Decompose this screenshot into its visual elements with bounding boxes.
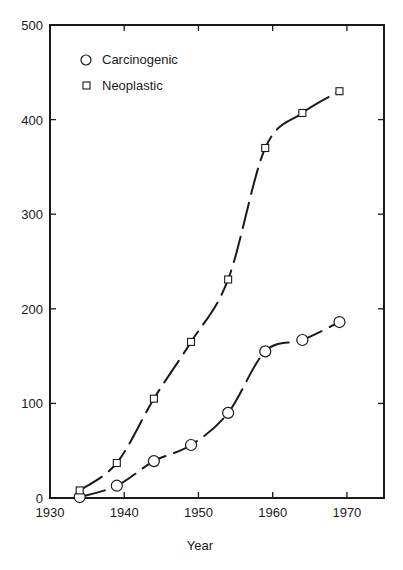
axis-ticks: 193019401950196019700100200300400500	[21, 18, 384, 520]
data-point-circle-icon	[223, 407, 234, 418]
y-tick-label: 500	[21, 18, 43, 33]
data-point-square-icon	[188, 338, 195, 345]
data-point-circle-icon	[148, 456, 159, 467]
x-tick-label: 1940	[110, 505, 139, 520]
data-point-square-icon	[262, 144, 269, 151]
legend: Carcinogenic Neoplastic	[81, 52, 178, 93]
x-tick-label: 1930	[36, 505, 65, 520]
legend-circle-marker-icon	[81, 55, 91, 65]
legend-square-marker-icon	[83, 82, 90, 89]
x-tick-label: 1950	[184, 505, 213, 520]
plot-frame	[50, 25, 384, 498]
data-point-square-icon	[299, 109, 306, 116]
data-point-square-icon	[113, 459, 120, 466]
legend-label-carcinogenic: Carcinogenic	[102, 52, 178, 67]
data-point-square-icon	[76, 487, 83, 494]
fit-curve-carcinogenic	[80, 322, 340, 497]
x-tick-label: 1960	[258, 505, 287, 520]
y-tick-label: 0	[36, 491, 43, 506]
fit-curves	[80, 91, 340, 497]
data-point-square-icon	[150, 395, 157, 402]
data-point-circle-icon	[111, 480, 122, 491]
x-tick-label: 1970	[332, 505, 361, 520]
legend-label-neoplastic: Neoplastic	[102, 78, 163, 93]
y-tick-label: 300	[21, 207, 43, 222]
y-tick-label: 200	[21, 302, 43, 317]
data-point-square-icon	[336, 88, 343, 95]
y-tick-label: 400	[21, 113, 43, 128]
data-point-circle-icon	[260, 346, 271, 357]
y-tick-label: 100	[21, 396, 43, 411]
data-point-circle-icon	[297, 335, 308, 346]
data-points	[74, 88, 345, 503]
chart: 193019401950196019700100200300400500 Car…	[0, 0, 403, 570]
data-point-circle-icon	[186, 440, 197, 451]
data-point-square-icon	[225, 276, 232, 283]
data-point-circle-icon	[334, 317, 345, 328]
x-axis-title: Year	[187, 538, 214, 553]
